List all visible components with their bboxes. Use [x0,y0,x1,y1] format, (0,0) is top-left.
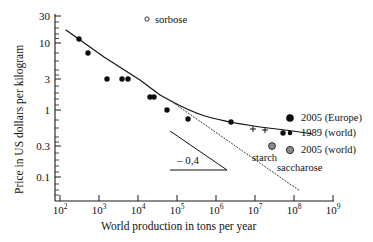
x-tick-label-1e2: 102 [45,205,75,216]
series-2005-world-points [269,143,276,150]
legend-marker-2005-europe-icon [286,114,294,122]
x-tick-label-1e7: 107 [240,205,270,216]
y-tick-label-30: 30 [24,11,50,22]
x-axis-title: World production in tons per year [101,221,256,233]
slope-annotation-label: – 0,4 [177,155,199,166]
saccharose-label: saccharose [277,163,322,174]
x-tick-label-1e6: 106 [201,205,231,216]
y-axis-minor-ticks [55,22,59,195]
x-tick-label-1e9: 109 [318,205,348,216]
chart-container: 30 10 3 1 0.3 0.1 102 103 104 105 106 10… [0,0,373,242]
legend-marker-2005-world-icon [286,146,293,153]
extrapolation-dotted-line [168,99,300,191]
y-tick-label-10: 10 [24,38,50,49]
series-2005-europe-points [76,36,285,135]
legend-label-2005-world: 2005 (world) [301,145,356,156]
x-tick-label-1e3: 103 [84,205,114,216]
x-tick-label-1e4: 104 [123,205,153,216]
legend-label-1989-world: 1989 (world) [301,128,356,139]
x-tick-label-1e8: 108 [279,205,309,216]
sorbose-marker-icon [145,17,149,21]
legend-marker-1989-world-icon [288,131,293,136]
x-axis-major-ticks [60,195,333,201]
y-axis-title: Price in US dollars per kilogram [14,45,26,194]
x-tick-label-1e5: 105 [162,205,192,216]
sorbose-label: sorbose [155,15,187,26]
starch-label: starch [252,153,277,164]
legend-label-2005-europe: 2005 (Europe) [301,113,362,124]
y-tick-label-3: 3 [24,74,50,85]
y-tick-label-1: 1 [24,105,50,116]
